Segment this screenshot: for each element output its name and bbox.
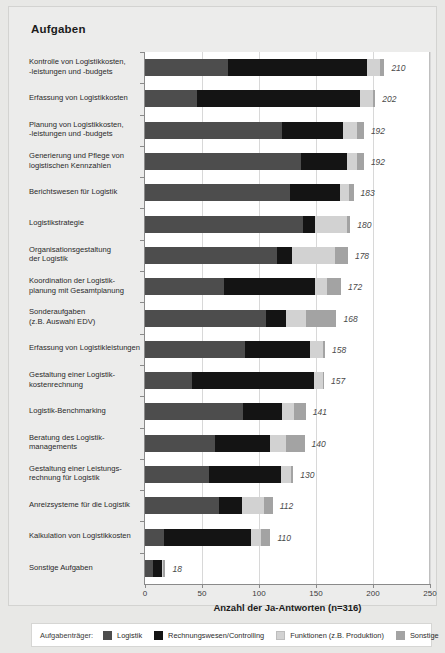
bar-segment-funktionen: [343, 122, 357, 139]
legend-swatch-sonstige: [396, 631, 405, 640]
y-tick: [140, 52, 144, 53]
category-label-line: -leistungen und -budgets: [29, 129, 141, 139]
bar-segment-rechnung: [153, 560, 162, 577]
legend: Aufgabenträger: LogistikRechnungswesen/C…: [31, 623, 432, 647]
bar-segment-logistik: [145, 59, 228, 76]
bar-row: [145, 216, 350, 233]
bar-value-label: 157: [331, 376, 345, 386]
y-tick: [140, 240, 144, 241]
legend-item-sonstige[interactable]: Sonstige: [396, 631, 439, 640]
y-tick: [140, 459, 144, 460]
legend-item-rechnung[interactable]: Rechnungswesen/Controlling: [154, 631, 264, 640]
bar-segment-rechnung: [164, 529, 251, 546]
x-tick-label: 150: [309, 589, 322, 598]
bar-segment-logistik: [145, 184, 290, 201]
bar-segment-logistik: [145, 497, 219, 514]
bar-value-label: 202: [382, 94, 396, 104]
bar-row: [145, 122, 364, 139]
bar-segment-logistik: [145, 153, 301, 170]
y-tick: [140, 365, 144, 366]
category-label-line: Beratung des Logistik-: [29, 433, 141, 443]
legend-label: Logistik: [117, 631, 142, 640]
bar-row: [145, 560, 165, 577]
x-tick: [430, 584, 431, 588]
category-label-line: Kalkulation von Logistikkosten: [29, 531, 141, 541]
bar-segment-sonstige: [294, 403, 305, 420]
bar-segment-sonstige: [327, 278, 341, 295]
bar-segment-sonstige: [323, 372, 324, 389]
bar-row: [145, 90, 375, 107]
bar-segment-sonstige: [347, 216, 350, 233]
bar-segment-funktionen: [242, 497, 264, 514]
bar-segment-logistik: [145, 435, 215, 452]
bar-row: [145, 497, 273, 514]
bar-segment-sonstige: [349, 184, 354, 201]
category-label-line: Gestaltung einer Logistik-: [29, 370, 141, 380]
bar-segment-sonstige: [286, 435, 304, 452]
bar-segment-logistik: [145, 372, 192, 389]
bar-segment-funktionen: [347, 153, 357, 170]
category-label-line: Berichtswesen für Logistik: [29, 187, 141, 197]
category-label: Erfassung von Logistikleistungen: [29, 343, 141, 353]
bar-segment-funktionen: [310, 341, 323, 358]
bar-segment-sonstige: [373, 90, 375, 107]
category-label: Gestaltung einer Logistik-kostenrechnung: [29, 370, 141, 389]
category-label: Kalkulation von Logistikkosten: [29, 531, 141, 541]
category-label-line: Erfassung von Logistikleistungen: [29, 343, 141, 353]
bar-segment-funktionen: [281, 466, 291, 483]
category-label: Beratung des Logistik-managements: [29, 433, 141, 452]
bar-row: [145, 278, 341, 295]
legend-item-funktionen[interactable]: Funktionen (z.B. Produktion): [276, 631, 384, 640]
x-tick: [373, 584, 374, 588]
y-tick: [140, 428, 144, 429]
bar-value-label: 210: [391, 63, 405, 73]
bar-value-label: 18: [173, 564, 182, 574]
bar-value-label: 178: [355, 251, 369, 261]
bar-segment-logistik: [145, 90, 197, 107]
category-label-line: Sonstige Aufgaben: [29, 563, 141, 573]
bar-segment-sonstige: [357, 153, 364, 170]
bar-row: [145, 466, 293, 483]
bar-segment-logistik: [145, 216, 303, 233]
bar-segment-rechnung: [224, 278, 315, 295]
category-label-line: kostenrechnung: [29, 380, 141, 390]
y-tick: [140, 271, 144, 272]
bar-segment-rechnung: [209, 466, 281, 483]
bar-segment-rechnung: [245, 341, 310, 358]
category-label-line: Sonderaufgaben: [29, 307, 141, 317]
bar-segment-rechnung: [243, 403, 282, 420]
bar-segment-funktionen: [251, 529, 261, 546]
bar-segment-logistik: [145, 466, 209, 483]
category-label: Sonstige Aufgaben: [29, 563, 141, 573]
bar-segment-funktionen: [315, 216, 347, 233]
category-label-line: managements: [29, 442, 141, 452]
bar-segment-funktionen: [270, 435, 286, 452]
bar-segment-funktionen: [367, 59, 380, 76]
bar-value-label: 130: [300, 470, 314, 480]
chart-title: Aufgaben: [31, 23, 86, 35]
category-label-line: Planung von Logistikkosten,: [29, 120, 141, 130]
legend-item-logistik[interactable]: Logistik: [103, 631, 142, 640]
x-tick-label: 0: [143, 589, 147, 598]
y-tick: [140, 553, 144, 554]
x-tick-label: 250: [423, 589, 436, 598]
bar-segment-rechnung: [228, 59, 367, 76]
category-label-line: logistischen Kennzahlen: [29, 161, 141, 171]
legend-label: Rechnungswesen/Controlling: [168, 631, 264, 640]
bar-segment-sonstige: [163, 560, 165, 577]
bar-segment-logistik: [145, 278, 224, 295]
y-tick: [140, 490, 144, 491]
bar-segment-logistik: [145, 122, 282, 139]
x-tick-label: 100: [252, 589, 265, 598]
category-label: Generierung und Pflege vonlogistischen K…: [29, 151, 141, 170]
category-label: Logistik-Benchmarking: [29, 406, 141, 416]
category-label: Organisationsgestaltungder Logistik: [29, 245, 141, 264]
bar-segment-sonstige: [335, 247, 348, 264]
category-label: Logistikstrategie: [29, 218, 141, 228]
legend-swatch-logistik: [103, 631, 112, 640]
category-label: Gestaltung einer Leistungs-rechnung für …: [29, 464, 141, 483]
bar-segment-rechnung: [215, 435, 271, 452]
bar-segment-funktionen: [314, 372, 323, 389]
y-tick: [140, 146, 144, 147]
bar-row: [145, 435, 305, 452]
